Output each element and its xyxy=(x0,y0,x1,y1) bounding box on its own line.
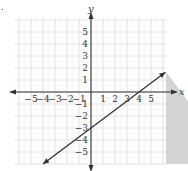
svg-text:−1: −1 xyxy=(75,99,88,109)
svg-text:3: 3 xyxy=(82,51,88,61)
svg-text:2: 2 xyxy=(82,63,88,73)
problem-bullet: . xyxy=(1,2,4,12)
y-axis-label: y xyxy=(87,3,94,14)
svg-text:1: 1 xyxy=(100,94,106,104)
svg-text:−2: −2 xyxy=(75,111,88,121)
svg-text:5: 5 xyxy=(148,94,154,104)
x-axis-label: x xyxy=(179,86,185,97)
axes xyxy=(9,12,178,171)
inequality-graph: −5−4−3−2−11234554321−1−2−3−4−5 x y . xyxy=(0,0,188,171)
svg-text:1: 1 xyxy=(82,75,88,85)
svg-text:2: 2 xyxy=(112,94,118,104)
svg-text:−4: −4 xyxy=(75,135,89,145)
svg-text:4: 4 xyxy=(82,39,88,49)
shaded-region xyxy=(166,72,188,164)
svg-text:4: 4 xyxy=(136,94,142,104)
svg-text:5: 5 xyxy=(82,27,88,37)
svg-text:−5: −5 xyxy=(75,147,89,157)
